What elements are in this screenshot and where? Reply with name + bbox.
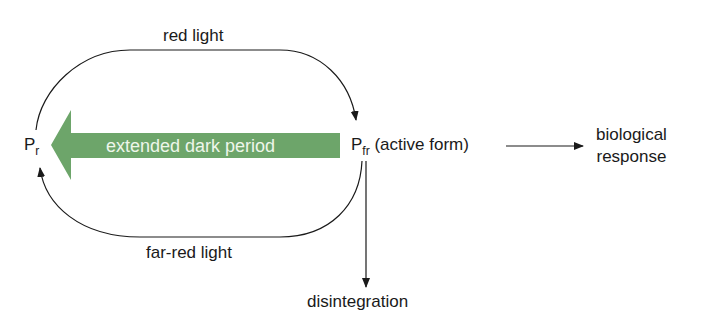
pr-main: P [24,135,35,154]
disintegration-node: disintegration [307,293,408,310]
far-red-light-label: far-red light [146,244,232,261]
response-line2: response [596,146,667,168]
extended-dark-period-label: extended dark period [106,137,275,155]
pfr-node: Pfr (active form) [351,136,469,153]
pr-sub: r [35,144,39,158]
biological-response-node: biological response [596,124,667,168]
red-light-label: red light [163,27,223,44]
pfr-main: P [351,135,362,154]
response-line1: biological [596,124,667,146]
pfr-sub: fr [362,144,369,158]
far-red-light-arc [40,161,362,237]
pr-node: Pr [24,136,39,153]
red-light-arc [36,50,356,130]
pfr-suffix: (active form) [370,135,469,154]
